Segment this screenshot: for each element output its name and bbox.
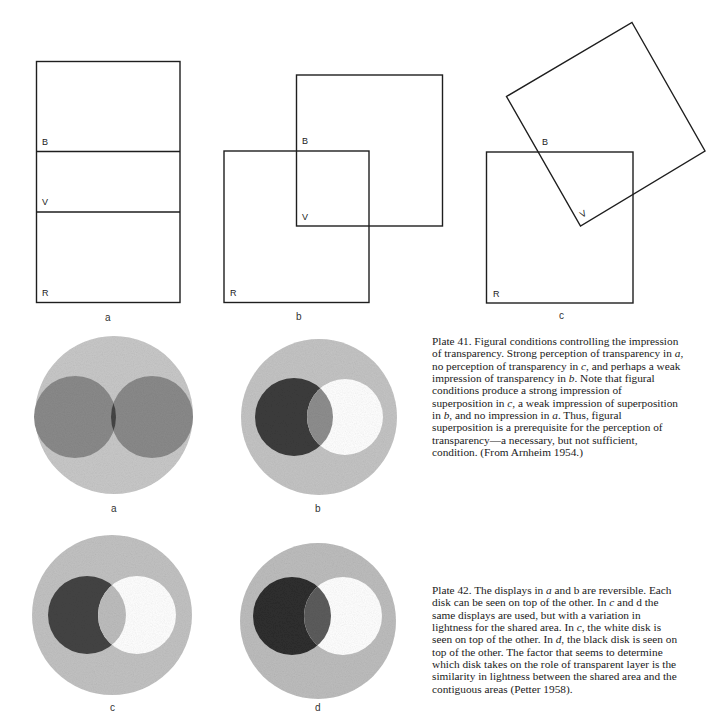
- label-r: R: [230, 288, 237, 298]
- plate-42-caption: Plate 42. The displays in a and b are re…: [432, 584, 710, 695]
- square-diagram-b: [224, 75, 443, 303]
- caption-line: no perception of transparency in c, and …: [432, 360, 710, 372]
- caption-line: condition. (From Arnheim 1954.): [432, 446, 710, 458]
- label-v: V: [42, 197, 48, 207]
- caption-line: disk can be seen on top of the other. In…: [432, 596, 710, 608]
- caption-line: seen on top of the other. In d, the blac…: [432, 633, 710, 645]
- caption-line: similarity in lightness between the shar…: [432, 670, 710, 682]
- label-b: B: [302, 136, 308, 146]
- caption-line: of transparency. Strong perception of tr…: [432, 347, 710, 359]
- caption-line: in b, and no impression in a. Thus, figu…: [432, 409, 710, 421]
- disk-display-d: [240, 543, 396, 699]
- caption-line: same displays are used, but with a varia…: [432, 609, 710, 621]
- caption-c: c: [110, 702, 115, 713]
- caption-line: superposition in c, a weak impression of…: [432, 397, 710, 409]
- disk-display-c: [32, 535, 192, 695]
- disk-display-a: [34, 336, 193, 494]
- caption-line: lightness for the shared area. In c, the…: [432, 621, 710, 633]
- square-diagram-a: [37, 62, 181, 303]
- inner-disk-left: [34, 376, 116, 458]
- caption-b: b: [296, 311, 302, 322]
- caption-line: top of the other. The factor that seems …: [432, 646, 710, 658]
- label-r: R: [493, 289, 500, 299]
- caption-c: c: [559, 310, 564, 321]
- plate-41-caption: Plate 41. Figural conditions controlling…: [432, 335, 710, 458]
- caption-d: d: [315, 702, 321, 713]
- caption-line: Plate 41. Figural conditions controlling…: [432, 335, 710, 347]
- label-b: B: [42, 137, 48, 147]
- caption-line: conditions produce a strong impression o…: [432, 384, 710, 396]
- square-diagram-c: [487, 23, 706, 304]
- caption-line: superposition is a prerequisite for the …: [432, 421, 710, 433]
- caption-line: contiguous areas (Petter 1958).: [432, 683, 710, 695]
- caption-line: transparency—a necessary, but not suffic…: [432, 434, 710, 446]
- caption-a: a: [105, 312, 111, 323]
- inner-disk-right: [111, 376, 193, 458]
- caption-line: impression of transparency in b. Note th…: [432, 372, 710, 384]
- disk-display-b: [241, 339, 397, 495]
- label-v: V: [578, 208, 588, 220]
- front-square: [487, 152, 634, 303]
- caption-b: b: [315, 503, 321, 514]
- label-r: R: [42, 288, 49, 298]
- rotated-square: [507, 23, 706, 227]
- caption-line: which disk takes on the role of transpar…: [432, 658, 710, 670]
- caption-a: a: [111, 503, 117, 514]
- label-v: V: [302, 212, 308, 222]
- label-b: B: [542, 137, 548, 147]
- rectangle-outline: [37, 62, 181, 303]
- caption-line: Plate 42. The displays in a and b are re…: [432, 584, 710, 596]
